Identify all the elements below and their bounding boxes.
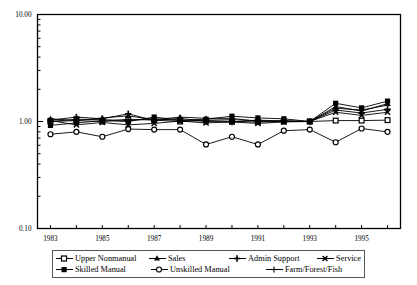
y-tick-label: 0.10 bbox=[19, 225, 32, 233]
legend-item-unskilled-manual: Unskilled Manual bbox=[151, 265, 266, 274]
legend-label-skilled-manual: Skilled Manual bbox=[75, 265, 126, 274]
legend-marker-plus-filled-icon bbox=[229, 254, 246, 263]
chart-figure: 10.001.000.10 19831985198719891991199319… bbox=[0, 0, 417, 285]
legend-item-farm-forest-fish: Farm/Forest/Fish bbox=[266, 265, 342, 274]
legend-label-unskilled-manual: Unskilled Manual bbox=[170, 265, 230, 274]
plot-area-wrapper: 10.001.000.10 19831985198719891991199319… bbox=[0, 0, 417, 245]
legend-row-2: Skilled Manual Unskilled Manual Farm/For… bbox=[56, 264, 361, 275]
legend-item-skilled-manual: Skilled Manual bbox=[56, 265, 151, 274]
legend-label-service: Service bbox=[336, 254, 361, 263]
series-group bbox=[47, 99, 390, 147]
y-tick-label: 1.00 bbox=[19, 118, 32, 126]
series-unskilled-manual bbox=[48, 126, 390, 147]
y-tick-label: 10.00 bbox=[15, 11, 32, 19]
x-tick-label: 1991 bbox=[251, 235, 266, 243]
legend-marker-cross-x-icon bbox=[317, 254, 334, 263]
x-tick-label: 1985 bbox=[95, 235, 110, 243]
x-tick-label: 1983 bbox=[43, 235, 58, 243]
legend-label-farm-forest-fish: Farm/Forest/Fish bbox=[285, 265, 342, 274]
legend-label-admin-support: Admin Support bbox=[248, 254, 299, 263]
legend-label-upper-nonmanual: Upper Nonmanual bbox=[75, 254, 137, 263]
legend-marker-plus-thin-icon bbox=[266, 265, 283, 274]
legend-item-admin-support: Admin Support bbox=[229, 254, 317, 263]
x-tick-label: 1987 bbox=[147, 235, 162, 243]
legend-label-sales: Sales bbox=[168, 254, 186, 263]
series-skilled-manual bbox=[48, 99, 390, 128]
x-tick-label: 1989 bbox=[199, 235, 214, 243]
y-tick-labels: 10.001.000.10 bbox=[15, 11, 32, 233]
line-chart-svg: 10.001.000.10 19831985198719891991199319… bbox=[0, 0, 417, 245]
legend-item-sales: Sales bbox=[149, 254, 229, 263]
legend-item-service: Service bbox=[317, 254, 361, 263]
legend-marker-filled-triangle-icon bbox=[149, 254, 166, 263]
legend-item-upper-nonmanual: Upper Nonmanual bbox=[56, 254, 149, 263]
chart-legend: Upper Nonmanual Sales Admin Support Serv… bbox=[52, 250, 365, 278]
x-tick-label: 1993 bbox=[303, 235, 318, 243]
legend-row-1: Upper Nonmanual Sales Admin Support Serv… bbox=[56, 253, 361, 264]
x-tick-labels: 1983198519871989199119931995 bbox=[43, 235, 369, 243]
x-tick-label: 1995 bbox=[354, 235, 369, 243]
legend-marker-filled-square-icon bbox=[56, 265, 73, 274]
legend-marker-open-circle-icon bbox=[151, 265, 168, 274]
legend-marker-open-square-icon bbox=[56, 254, 73, 263]
